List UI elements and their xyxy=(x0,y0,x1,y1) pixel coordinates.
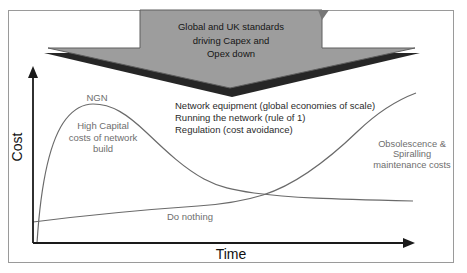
cost-drivers-list: Network equipment (global economies of s… xyxy=(175,100,455,136)
diagram-canvas: Global and UK standards driving Capex an… xyxy=(0,0,467,273)
do-nothing-curve-label: Do nothing xyxy=(167,211,227,222)
ngn-curve-label: NGN xyxy=(80,92,114,103)
y-axis-label: Cost xyxy=(9,117,25,177)
x-axis-arrowhead-icon xyxy=(403,238,415,248)
high-capital-annotation: High Capital costs of network build xyxy=(53,120,153,155)
obsolescence-annotation: Obsolescence & Spiralling maintenance co… xyxy=(364,139,460,170)
banner-text: Global and UK standards driving Capex an… xyxy=(148,20,314,61)
y-axis-arrowhead-icon xyxy=(28,66,38,78)
x-axis-label: Time xyxy=(206,246,256,262)
